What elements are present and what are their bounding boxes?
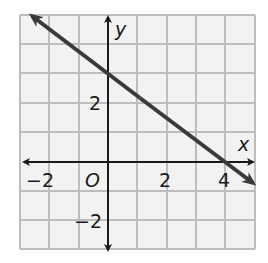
origin-label: O [85,169,100,191]
y-tick-label-neg2: −2 [74,210,102,232]
x-tick-label-2: 2 [159,169,171,191]
x-tick-label-4: 4 [218,169,230,191]
y-tick-label-2: 2 [89,92,101,114]
y-axis-label: y [114,18,127,40]
x-axis-label: x [237,133,250,155]
x-tick-label-neg2: −2 [26,169,54,191]
coordinate-plane: y x O −2 2 4 2 −2 [0,0,268,263]
